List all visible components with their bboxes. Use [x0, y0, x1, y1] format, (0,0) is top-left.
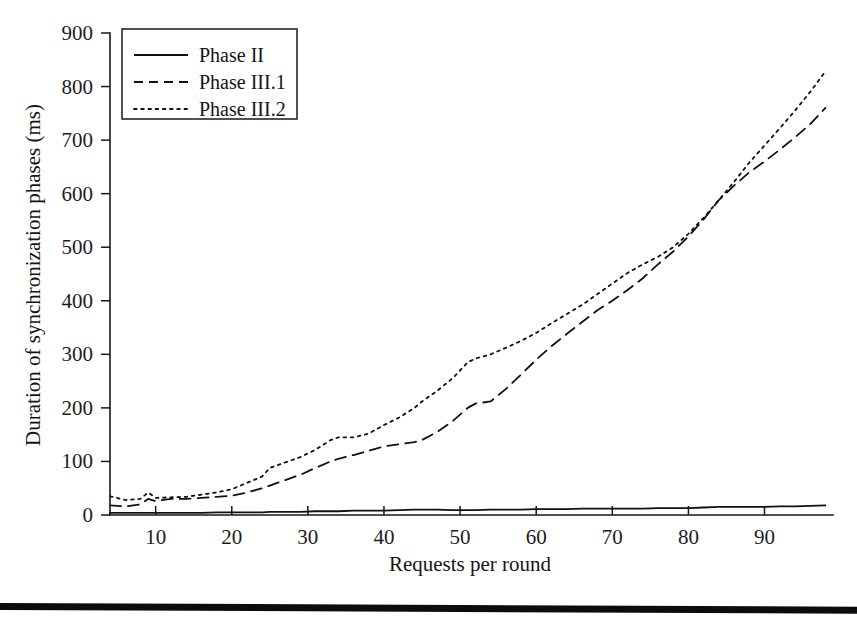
y-tick-label: 600	[62, 182, 94, 206]
y-tick-label: 500	[62, 235, 94, 259]
y-axis-ticks: 0100200300400500600700800900	[62, 21, 111, 527]
x-tick-label: 20	[221, 525, 242, 549]
x-tick-label: 10	[145, 525, 166, 549]
y-tick-label: 0	[83, 503, 94, 527]
y-tick-label: 400	[62, 289, 94, 313]
chart-legend: Phase IIPhase III.1Phase III.2	[122, 29, 297, 120]
y-tick-label: 900	[62, 21, 94, 45]
x-tick-label: 40	[373, 525, 394, 549]
data-series-group	[110, 72, 825, 513]
legend-label-1: Phase II	[199, 44, 264, 66]
legend-label-3: Phase III.2	[199, 98, 286, 120]
series-line-phase-ii	[110, 505, 825, 513]
y-tick-label: 200	[62, 396, 94, 420]
legend-label-2: Phase III.1	[199, 71, 286, 93]
legend-items: Phase IIPhase III.1Phase III.2	[134, 44, 286, 120]
x-tick-label: 80	[678, 525, 699, 549]
x-tick-label: 70	[602, 525, 623, 549]
y-tick-label: 300	[62, 342, 94, 366]
series-line-phase-iii-2	[110, 72, 825, 500]
series-line-phase-iii-1	[110, 108, 825, 506]
x-tick-label: 90	[754, 525, 775, 549]
x-tick-label: 50	[450, 525, 471, 549]
x-axis-title: Requests per round	[389, 552, 552, 576]
y-axis-title: Duration of synchronization phases (ms)	[21, 104, 45, 446]
x-tick-label: 30	[297, 525, 318, 549]
y-tick-label: 700	[62, 128, 94, 152]
figure-container: 0100200300400500600700800900 10203040506…	[0, 0, 857, 623]
x-tick-label: 60	[526, 525, 547, 549]
y-tick-label: 800	[62, 75, 94, 99]
y-tick-label: 100	[62, 449, 94, 473]
line-chart: 0100200300400500600700800900 10203040506…	[0, 0, 857, 623]
